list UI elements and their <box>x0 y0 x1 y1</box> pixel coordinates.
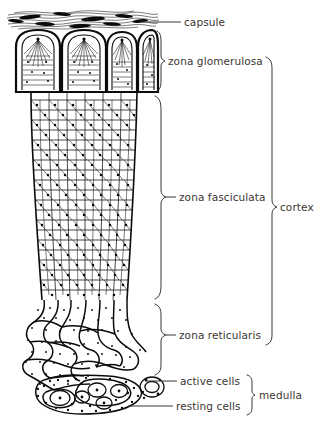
zona-fasciculata-label: zona fasciculata <box>179 191 266 203</box>
medulla-label: medulla <box>259 389 302 401</box>
adrenal-gland-histology-figure: capsule zona glomerulosa zona fasciculat… <box>0 0 318 433</box>
figure-canvas: capsule zona glomerulosa zona fasciculat… <box>0 0 318 433</box>
cortex-label: cortex <box>280 201 314 213</box>
zona-reticularis-label: zona reticularis <box>179 329 261 341</box>
zona-glomerulosa-label: zona glomerulosa <box>168 55 263 67</box>
capsule-label: capsule <box>184 16 225 28</box>
active-cells-label: active cells <box>180 375 240 387</box>
resting-cells-label: resting cells <box>176 400 241 412</box>
